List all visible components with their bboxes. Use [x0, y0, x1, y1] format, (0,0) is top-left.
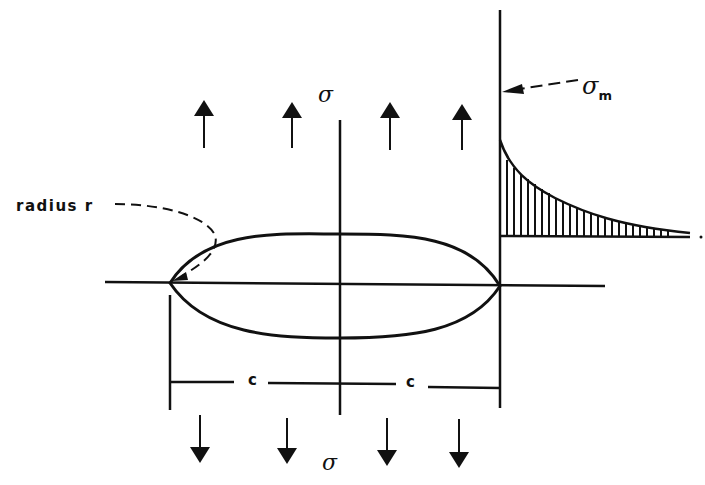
sigma-max-symbol: σ — [582, 72, 598, 100]
horizontal-axis — [105, 282, 605, 286]
sigma-top-label: σ — [318, 82, 333, 107]
radius-label: radius r — [16, 197, 94, 215]
sigma-max-subscript: m — [598, 88, 612, 103]
sigma-max-leader — [520, 80, 578, 89]
stress-profile-hatching — [507, 160, 668, 236]
applied-stress-arrows-top — [204, 108, 462, 150]
sigma-max-label: σm — [582, 72, 612, 103]
sigma-max-arrowhead-icon — [502, 84, 524, 94]
sigma-bottom-label: σ — [322, 450, 337, 475]
radius-leader-line — [115, 204, 216, 276]
half-length-label-right: c — [406, 373, 415, 391]
stress-profile-baseline — [500, 236, 690, 237]
dimension-line-mid — [268, 383, 396, 384]
half-length-label-left: c — [248, 371, 257, 389]
dimension-line-right — [428, 387, 500, 388]
